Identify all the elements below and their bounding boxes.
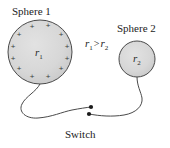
charge-plus-icon: + <box>65 55 70 63</box>
charge-plus-icon: + <box>59 65 64 73</box>
charge-plus-icon: + <box>59 31 64 39</box>
switch-label: Switch <box>65 129 96 140</box>
sphere-1-radius-label: r1 <box>35 47 43 61</box>
charge-plus-icon: + <box>30 23 35 31</box>
charge-plus-icon: + <box>46 22 51 30</box>
charge-plus-icon: + <box>30 73 35 81</box>
figure-canvas: ++++++++++++ Sphere 1 Sphere 2 Switch r1… <box>0 0 170 148</box>
wire-sphere1-to-switch <box>21 84 91 118</box>
sphere-2-radius-subscript: 2 <box>137 59 141 67</box>
sphere-2-label: Sphere 2 <box>117 23 156 34</box>
sphere-1-label: Sphere 1 <box>12 6 51 17</box>
sphere-1-radius-subscript: 1 <box>39 53 43 61</box>
inequality-right-subscript: 2 <box>105 44 109 52</box>
sphere-2-radius-label: r2 <box>133 53 141 67</box>
charge-plus-icon: + <box>11 43 16 51</box>
charge-plus-icon: + <box>17 31 22 39</box>
radius-inequality: r1>r2 <box>85 38 108 52</box>
switch-contact-upper[interactable] <box>89 105 93 109</box>
charge-plus-icon: + <box>65 43 70 51</box>
charge-plus-icon: + <box>17 65 22 73</box>
charge-plus-icon: + <box>11 55 16 63</box>
switch-contact-lower[interactable] <box>87 112 91 116</box>
wire-sphere2-to-switch <box>89 77 142 116</box>
charge-plus-icon: + <box>46 73 51 81</box>
